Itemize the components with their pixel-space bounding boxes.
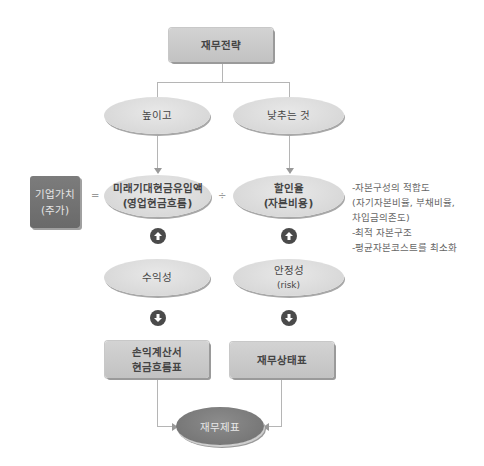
circle-down-arrow-icon: [150, 310, 166, 326]
note-line: (자기자본비율, 부채비율,: [352, 195, 457, 210]
circle-up-arrow-icon: [150, 228, 166, 244]
note-line: 차입금의존도): [352, 210, 457, 225]
financial-statements-ellipse: 재무제표: [176, 407, 264, 445]
balance-sheet-label: 재무상태표: [257, 353, 307, 368]
connector-right-mid: [289, 134, 290, 170]
future-cash-inflow-line2: (영업현금흐름): [123, 196, 193, 211]
divide-sign: ÷: [218, 190, 226, 201]
stability-sublabel: (risk): [277, 278, 300, 293]
note-line: -자본구성의 적합도: [352, 180, 457, 195]
future-cash-inflow-ellipse: 미래기대현금유입액 (영업현금흐름): [104, 175, 211, 217]
profitability-ellipse: 수익성: [104, 259, 210, 296]
equals-sign: =: [91, 190, 99, 201]
decrease-ellipse: 낮추는 것: [233, 97, 344, 134]
connector-left-mid: [157, 134, 158, 170]
balance-sheet-box: 재무상태표: [230, 342, 334, 378]
connector-branch: [157, 82, 289, 83]
increase-label: 높이고: [142, 108, 172, 123]
note-line: -최적 자본구조: [352, 225, 457, 240]
connector-bottom-left-h: [157, 426, 173, 427]
connector-right-top: [289, 82, 290, 97]
decrease-label: 낮추는 것: [267, 108, 310, 123]
financial-strategy-box: 재무전략: [169, 28, 273, 62]
income-cashflow-statement-box: 손익계산서 현금흐름표: [105, 341, 209, 378]
corporate-value-line1: 기업가치: [35, 186, 75, 202]
arrowhead-right: [286, 168, 294, 174]
connector-bottom-right: [281, 378, 282, 426]
financial-strategy-label: 재무전략: [201, 38, 241, 53]
discount-rate-ellipse: 할인율 (자본비용): [233, 175, 344, 217]
arrowhead-left: [154, 168, 162, 174]
corporate-value-box: 기업가치 (주가): [30, 176, 80, 228]
connector-top: [222, 62, 223, 82]
increase-ellipse: 높이고: [104, 97, 210, 134]
note-line: -평균자본코스트를 최소화: [352, 240, 457, 255]
stability-label: 안정성: [274, 263, 304, 278]
connector-bottom-left: [157, 378, 158, 426]
income-statement-label: 손익계산서: [132, 345, 182, 360]
discount-rate-line1: 할인율: [274, 181, 304, 196]
connector-bottom-right-h: [268, 426, 282, 427]
connector-left-top: [157, 82, 158, 97]
profitability-label: 수익성: [142, 270, 172, 285]
corporate-value-line2: (주가): [41, 202, 69, 218]
cashflow-statement-label: 현금흐름표: [132, 360, 182, 375]
stability-ellipse: 안정성 (risk): [233, 259, 344, 296]
discount-rate-line2: (자본비용): [264, 196, 314, 211]
financial-statements-label: 재무제표: [200, 419, 240, 434]
circle-up-arrow-icon: [281, 228, 297, 244]
circle-down-arrow-icon: [281, 310, 297, 326]
capital-structure-notes: -자본구성의 적합도 (자기자본비율, 부채비율, 차입금의존도) -최적 자본…: [352, 180, 457, 255]
future-cash-inflow-line1: 미래기대현금유입액: [113, 181, 203, 196]
